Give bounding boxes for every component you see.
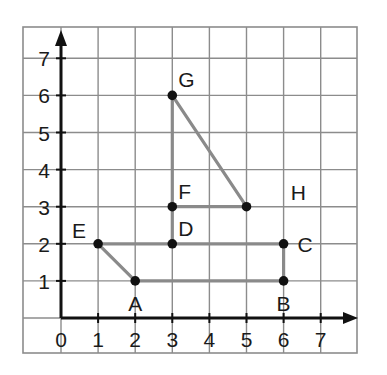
x-tick-label: 1 [92,328,104,351]
y-tick-label: 3 [38,196,50,219]
point-label-g: G [178,68,194,91]
y-tick-label: 1 [38,270,50,293]
point-b [279,276,289,286]
point-label-d: D [178,217,193,240]
point-labels: ABCDEFGH [72,68,313,315]
y-tick-label: 7 [38,47,50,70]
x-tick-label: 2 [129,328,141,351]
x-axis-arrow-icon [343,312,358,324]
point-label-e: E [72,219,86,242]
point-label-h: H [291,181,306,204]
x-tick-label: 3 [166,328,178,351]
point-label-c: C [298,233,313,256]
point-a [130,276,140,286]
y-tick-label: 6 [38,84,50,107]
shape-segment [98,244,135,281]
x-tick-label: 5 [241,328,253,351]
point-d [168,239,178,249]
y-tick-label: 4 [38,159,50,182]
y-tick-label: 5 [38,122,50,145]
point-label-b: B [277,292,291,315]
x-tick-label: 4 [204,328,216,351]
x-tick-label: 6 [278,328,290,351]
y-tick-label: 2 [38,233,50,256]
point-label-f: F [178,180,191,203]
point-label-a: A [128,292,142,315]
coordinate-grid-diagram: 012345671234567 ABCDEFGH [0,0,387,375]
x-tick-label: 7 [315,328,327,351]
point-c [279,239,289,249]
point-f [168,202,178,212]
point-e [93,239,103,249]
x-tick-label: 0 [55,328,67,351]
point-g [168,91,178,101]
point-unlabeled [242,202,252,212]
y-axis-arrow-icon [55,30,67,46]
